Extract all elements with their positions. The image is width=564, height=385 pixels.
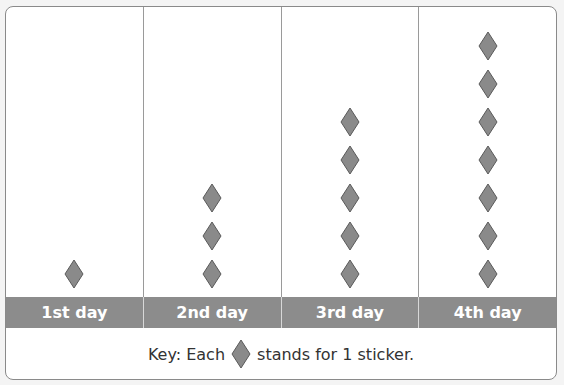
diamond-icon (231, 339, 251, 369)
icon-stack (419, 31, 556, 289)
category-label: 3rd day (282, 297, 420, 328)
diamond-icon (340, 183, 360, 213)
column-2nd-day (144, 7, 282, 297)
icon-stack (6, 259, 143, 289)
category-label: 2nd day (144, 297, 282, 328)
diamond-icon (478, 221, 498, 251)
diamond-icon (202, 183, 222, 213)
diamond-icon (478, 183, 498, 213)
key-prefix: Key: Each (148, 345, 225, 364)
column-3rd-day (282, 7, 420, 297)
diamond-icon (340, 107, 360, 137)
diamond-icon (478, 107, 498, 137)
column-1st-day (6, 7, 144, 297)
pictograph-columns (6, 7, 556, 297)
pictograph-chart: 1st day 2nd day 3rd day 4th day Key: Eac… (5, 6, 557, 380)
category-label: 4th day (419, 297, 556, 328)
diamond-icon (478, 145, 498, 175)
diamond-icon (340, 221, 360, 251)
icon-stack (144, 183, 281, 289)
diamond-icon (202, 259, 222, 289)
column-4th-day (419, 7, 556, 297)
chart-key: Key: Each stands for 1 sticker. (6, 328, 556, 380)
category-label: 1st day (6, 297, 144, 328)
category-label-band: 1st day 2nd day 3rd day 4th day (6, 297, 556, 328)
icon-stack (282, 107, 419, 289)
diamond-icon (340, 259, 360, 289)
diamond-icon (478, 69, 498, 99)
diamond-icon (64, 259, 84, 289)
diamond-icon (478, 259, 498, 289)
diamond-icon (478, 31, 498, 61)
diamond-icon (340, 145, 360, 175)
diamond-icon (202, 221, 222, 251)
key-suffix: stands for 1 sticker. (257, 345, 414, 364)
